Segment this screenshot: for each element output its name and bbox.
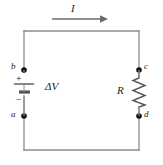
resistor-zigzag <box>133 75 145 108</box>
node-label-a: a <box>11 110 16 119</box>
resistance-label: R <box>117 85 124 96</box>
battery-symbol <box>14 84 34 92</box>
resistor-symbol <box>133 75 145 108</box>
battery-positive-label: + <box>16 74 22 84</box>
current-arrow <box>52 15 108 23</box>
circuit-diagram-figure: I b a c d ΔV R + − <box>0 0 163 165</box>
voltage-label: ΔV <box>45 81 58 92</box>
current-arrow-head <box>100 15 108 23</box>
node-label-b: b <box>11 62 16 71</box>
current-label: I <box>71 3 75 14</box>
node-label-d: d <box>144 110 149 119</box>
battery-negative-label: − <box>16 95 22 105</box>
node-label-c: c <box>144 62 148 71</box>
circuit-schematic <box>0 0 163 165</box>
